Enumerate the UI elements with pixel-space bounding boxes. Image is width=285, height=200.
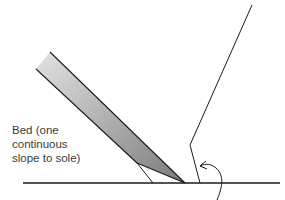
curved-arrow-icon — [200, 164, 222, 200]
bed-label-line-1: Bed (one — [12, 123, 80, 137]
bed-label: Bed (one continuous slope to sole) — [12, 123, 80, 165]
bed-label-line-2: continuous — [12, 137, 80, 151]
bed-label-line-3: slope to sole) — [12, 151, 80, 165]
throat-line — [190, 5, 252, 183]
plane-diagram — [0, 0, 285, 200]
